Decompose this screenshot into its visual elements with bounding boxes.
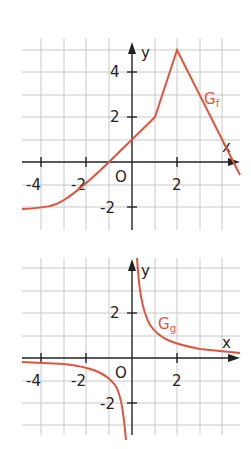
graph-g: -4 -2 2 2 -2 O y x Gg [22, 258, 240, 440]
function-graphs: -4 -2 2 4 2 -2 O y x Gf -4 -2 2 2 -2 O y… [0, 0, 251, 449]
x-axis-label: x [222, 334, 231, 352]
y-axis-label: y [141, 44, 150, 62]
y-tick-label: 2 [110, 108, 120, 126]
x-tick-label: -4 [26, 372, 41, 390]
x-tick-label: -2 [71, 372, 86, 390]
graph-f: -4 -2 2 4 2 -2 O y x Gf [22, 38, 240, 230]
grid-g [22, 258, 240, 435]
x-tick-label: 2 [172, 176, 182, 194]
y-axis-arrow-icon [128, 42, 136, 54]
origin-label: O [115, 168, 127, 186]
y-axis-arrow-icon [128, 259, 136, 271]
curve-label-gg: Gg [158, 315, 176, 334]
x-axis-arrow-icon [228, 354, 240, 362]
y-tick-label: 4 [110, 63, 120, 81]
x-tick-label: 2 [172, 372, 182, 390]
y-tick-label: -2 [100, 395, 115, 413]
y-axis-label: y [141, 262, 150, 280]
y-tick-label: 2 [110, 304, 120, 322]
curve-label-gf: Gf [204, 90, 220, 109]
y-tick-label: -2 [100, 199, 115, 217]
grid-f [22, 38, 240, 230]
origin-label: O [115, 364, 127, 382]
x-tick-label: -4 [26, 176, 41, 194]
